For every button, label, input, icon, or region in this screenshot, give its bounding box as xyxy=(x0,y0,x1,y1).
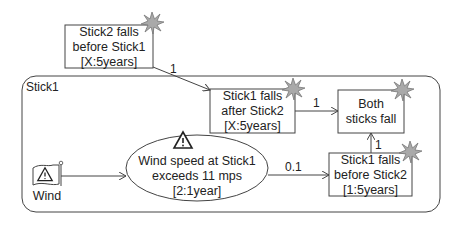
edge-label: 1 xyxy=(313,96,320,111)
node-label-line: [2:1year] xyxy=(126,184,268,199)
node-label-line: before Stick1 xyxy=(65,40,153,55)
node-label-line: before Stick2 xyxy=(329,168,412,183)
node-label: Stick2 falls before Stick1 [X:5years] xyxy=(65,25,153,70)
node-label-line: Stick2 falls xyxy=(65,25,153,40)
node-label: Stick1 falls after Stick2 [X:5years] xyxy=(210,89,295,134)
edge-label: 1 xyxy=(375,138,382,153)
node-label: Both sticks fall xyxy=(338,97,404,127)
node-label-line: Both xyxy=(338,97,404,112)
edge-label: 1 xyxy=(170,62,177,77)
edge-label: 0.1 xyxy=(285,160,302,175)
node-label-line: exceeds 11 mps xyxy=(126,169,268,184)
node-label: Wind speed at Stick1 exceeds 11 mps [2:1… xyxy=(126,154,268,199)
node-label-line: [X:5years] xyxy=(210,119,295,134)
node-label-line: sticks fall xyxy=(338,112,404,127)
node-label-line: [1:5years] xyxy=(329,183,412,198)
edge-stick2-to-stick1-after xyxy=(153,67,210,90)
container-label: Stick1 xyxy=(26,80,59,95)
node-label-line: [X:5years] xyxy=(65,55,153,70)
node-label-line: Wind speed at Stick1 xyxy=(126,154,268,169)
wind-label: Wind xyxy=(30,189,64,204)
node-label-line: Stick1 falls xyxy=(210,89,295,104)
wind-flag-icon[interactable] xyxy=(33,161,63,186)
node-label-line: Stick1 falls xyxy=(329,153,412,168)
node-label: Stick1 falls before Stick2 [1:5years] xyxy=(329,153,412,198)
node-label-line: after Stick2 xyxy=(210,104,295,119)
